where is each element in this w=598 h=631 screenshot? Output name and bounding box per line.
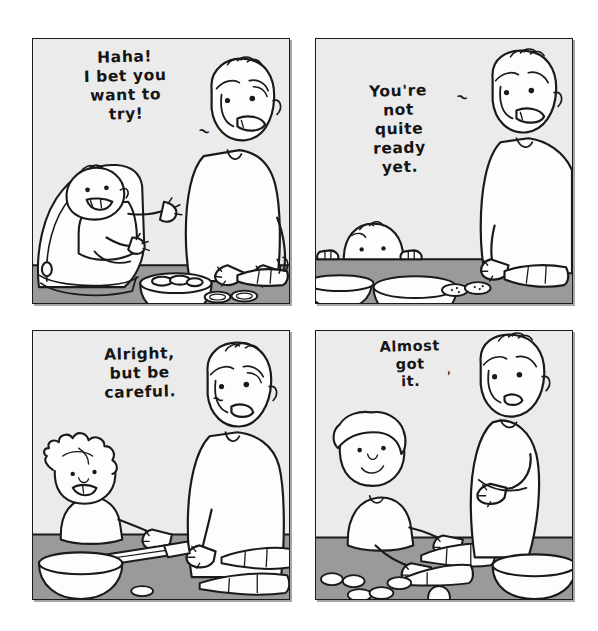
panel-4-artwork bbox=[316, 331, 572, 599]
comic-strip: Haha! I bet you want to try! ~ bbox=[0, 0, 598, 631]
panel-1-artwork bbox=[33, 39, 289, 303]
comic-panel-1 bbox=[32, 38, 290, 304]
comic-panel-3 bbox=[32, 330, 290, 600]
panel-2-artwork bbox=[316, 39, 572, 303]
comic-panel-2 bbox=[315, 38, 573, 304]
comic-panel-4 bbox=[315, 330, 573, 600]
panel-3-artwork bbox=[33, 331, 289, 599]
